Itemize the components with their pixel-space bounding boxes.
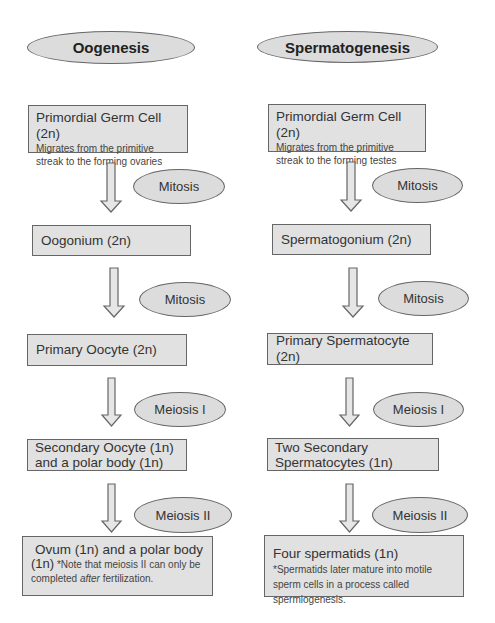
spermatogenesis-step-primordial-germ-cell: Primordial Germ Cell (2n) Migrates from … bbox=[268, 104, 426, 152]
transition-meiosis-i: Meiosis I bbox=[373, 392, 464, 427]
transition-label: Mitosis bbox=[165, 292, 205, 307]
transition-mitosis: Mitosis bbox=[133, 169, 225, 204]
transition-mitosis: Mitosis bbox=[378, 281, 469, 316]
spermatogenesis-step-spermatogonium: Spermatogonium (2n) bbox=[272, 224, 431, 255]
oogenesis-step-ovum: Ovum (1n) and a polar body (1n) *Note th… bbox=[22, 536, 213, 596]
step-label: Primary Oocyte (2n) bbox=[36, 342, 157, 358]
transition-meiosis-ii: Meiosis II bbox=[134, 497, 232, 533]
down-arrow-icon bbox=[345, 268, 365, 318]
step-note: *Spermatids later mature into motile spe… bbox=[273, 564, 432, 605]
step-note-end: fertilization. bbox=[100, 573, 153, 584]
transition-label: Meiosis II bbox=[156, 508, 211, 523]
transition-label: Mitosis bbox=[159, 179, 199, 194]
down-arrow-icon bbox=[342, 484, 362, 534]
down-arrow-icon bbox=[104, 484, 124, 534]
oogenesis-step-secondary-oocyte: Secondary Oocyte (1n) and a polar body (… bbox=[27, 439, 187, 471]
down-arrow-icon bbox=[343, 162, 363, 212]
down-arrow-icon bbox=[342, 378, 362, 428]
step-label: Oogonium (2n) bbox=[41, 233, 131, 249]
step-label: Two Secondary Spermatocytes (1n) bbox=[275, 440, 395, 470]
step-label: Ovum (1n) and a polar body bbox=[31, 542, 204, 557]
step-label: Primary Spermatocyte (2n) bbox=[276, 333, 424, 365]
step-label: Four spermatids (1n) bbox=[273, 546, 398, 561]
step-label: Primordial Germ Cell (2n) bbox=[276, 109, 418, 141]
down-arrow-icon bbox=[106, 268, 126, 318]
step-label: Secondary Oocyte (1n) and a polar body (… bbox=[35, 440, 179, 470]
transition-label: Mitosis bbox=[397, 178, 437, 193]
step-note-emphasis: after bbox=[80, 573, 100, 584]
down-arrow-icon bbox=[104, 378, 124, 428]
transition-mitosis: Mitosis bbox=[139, 282, 231, 317]
oogenesis-title: Oogenesis bbox=[27, 31, 195, 64]
step-label: Primordial Germ Cell (2n) bbox=[36, 110, 180, 142]
transition-mitosis: Mitosis bbox=[372, 168, 463, 203]
down-arrow-icon bbox=[103, 163, 123, 213]
step-label-continued: (1n) bbox=[31, 556, 54, 571]
oogenesis-step-oogonium: Oogonium (2n) bbox=[32, 225, 191, 256]
transition-label: Meiosis I bbox=[154, 402, 205, 417]
spermatogenesis-title-text: Spermatogenesis bbox=[285, 39, 410, 56]
oogenesis-step-primordial-germ-cell: Primordial Germ Cell (2n) Migrates from … bbox=[28, 105, 188, 153]
oogenesis-step-primary-oocyte: Primary Oocyte (2n) bbox=[27, 334, 187, 366]
step-label: Spermatogonium (2n) bbox=[281, 232, 412, 248]
oogenesis-title-text: Oogenesis bbox=[73, 39, 150, 56]
transition-label: Meiosis II bbox=[393, 508, 448, 523]
spermatogenesis-step-secondary-spermatocytes: Two Secondary Spermatocytes (1n) bbox=[267, 438, 439, 471]
transition-label: Meiosis I bbox=[393, 402, 444, 417]
transition-meiosis-ii: Meiosis II bbox=[372, 497, 468, 533]
spermatogenesis-step-primary-spermatocyte: Primary Spermatocyte (2n) bbox=[267, 333, 433, 365]
transition-meiosis-i: Meiosis I bbox=[134, 392, 226, 427]
spermatogenesis-step-spermatids: Four spermatids (1n) *Spermatids later m… bbox=[264, 535, 464, 597]
spermatogenesis-title: Spermatogenesis bbox=[257, 31, 438, 63]
transition-label: Mitosis bbox=[403, 291, 443, 306]
